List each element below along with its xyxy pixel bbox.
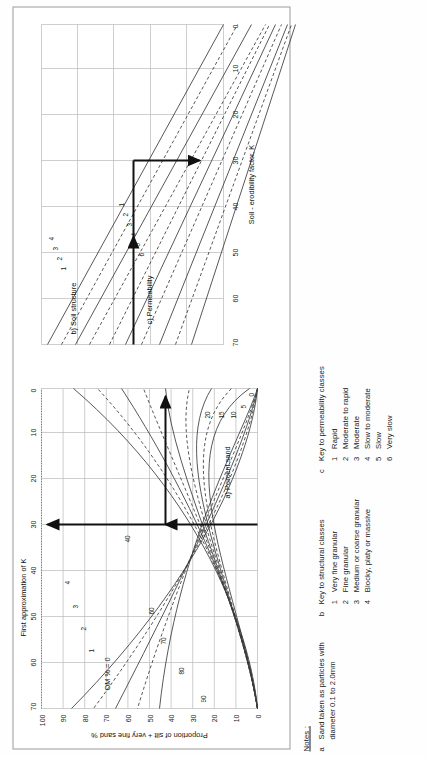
note-b-heading: Key to structural classes bbox=[315, 519, 326, 604]
svg-text:40: 40 bbox=[168, 714, 175, 722]
permeability-curves bbox=[109, 24, 295, 344]
note-c-6-num: 6 bbox=[383, 452, 394, 460]
svg-text:60: 60 bbox=[124, 714, 131, 722]
left-panel-y-axis-label: Proportion of silt + very fine sand % bbox=[90, 730, 207, 739]
note-b-1-num: 1 bbox=[328, 596, 339, 604]
note-b-3-num: 3 bbox=[350, 596, 361, 604]
svg-text:4: 4 bbox=[47, 236, 54, 240]
structure-legend: b) Soil structure bbox=[68, 282, 77, 334]
permeability-legend: c) Permeability bbox=[144, 275, 153, 324]
svg-text:0: 0 bbox=[231, 24, 238, 28]
svg-text:70: 70 bbox=[231, 338, 238, 346]
left-panel-top-axis-label: First approximation of K bbox=[18, 558, 27, 636]
svg-text:70: 70 bbox=[29, 702, 36, 710]
nomograph-figure: 0 10 20 30 40 50 60 70 First approximati… bbox=[12, 6, 290, 749]
svg-text:10: 10 bbox=[231, 64, 238, 72]
svg-text:60: 60 bbox=[147, 606, 154, 614]
svg-text:3: 3 bbox=[51, 246, 58, 250]
note-a: a Sand taken as particles with diameter … bbox=[315, 642, 394, 751]
note-c-2-label: Moderate to rapid bbox=[339, 387, 350, 448]
svg-text:5: 5 bbox=[239, 404, 246, 408]
svg-text:40: 40 bbox=[123, 534, 130, 542]
svg-text:50: 50 bbox=[146, 714, 153, 722]
note-b-4-label: Blocky, platy or massive bbox=[361, 508, 372, 591]
svg-text:50: 50 bbox=[231, 248, 238, 256]
right-panel-x-axis-label: Soil - erodibility factor, K bbox=[246, 144, 255, 223]
svg-text:2: 2 bbox=[55, 256, 62, 260]
notes-title: Notes : bbox=[300, 281, 311, 751]
right-panel-bottom-ticks: 0 10 20 30 40 50 60 70 bbox=[231, 24, 238, 346]
om-curves bbox=[71, 388, 257, 708]
note-c-3-num: 3 bbox=[350, 452, 361, 460]
svg-text:10: 10 bbox=[229, 410, 236, 418]
svg-text:60: 60 bbox=[29, 658, 36, 666]
sand-legend: a) Percent sand bbox=[222, 446, 231, 498]
svg-text:0: 0 bbox=[247, 392, 254, 396]
notes-block: Notes : a Sand taken as particles with d… bbox=[300, 281, 420, 751]
left-panel-top-ticks: 0 10 20 30 40 50 60 70 bbox=[29, 388, 36, 710]
note-c-6-label: Very slow bbox=[383, 415, 394, 448]
note-a-key: a bbox=[315, 743, 326, 751]
om-class-labels: 1 2 3 4 bbox=[63, 580, 94, 652]
note-c-3-label: Moderate bbox=[350, 416, 361, 449]
note-a-heading2: diameter 0.1 to 2.0mm bbox=[326, 661, 337, 739]
note-b-2-num: 2 bbox=[339, 596, 350, 604]
svg-text:20: 20 bbox=[211, 714, 218, 722]
svg-text:100: 100 bbox=[38, 714, 45, 726]
svg-text:2: 2 bbox=[121, 212, 128, 216]
note-b-key: b bbox=[315, 608, 326, 616]
svg-text:10: 10 bbox=[232, 714, 239, 722]
note-c: c Key to permeability classes 1Rapid 2Mo… bbox=[315, 366, 394, 473]
svg-text:50: 50 bbox=[29, 612, 36, 620]
note-c-2-num: 2 bbox=[339, 452, 350, 460]
svg-text:60: 60 bbox=[231, 294, 238, 302]
svg-text:80: 80 bbox=[81, 714, 88, 722]
svg-text:80: 80 bbox=[177, 666, 184, 674]
svg-text:1: 1 bbox=[87, 648, 94, 652]
svg-text:4: 4 bbox=[63, 580, 70, 584]
note-c-1-label: Rapid bbox=[328, 428, 339, 448]
note-c-4-label: Slow to moderate bbox=[361, 388, 372, 449]
note-c-heading: Key to permeability classes bbox=[315, 366, 326, 461]
svg-text:30: 30 bbox=[189, 714, 196, 722]
svg-text:10: 10 bbox=[29, 428, 36, 436]
svg-text:3: 3 bbox=[71, 604, 78, 608]
note-c-1-num: 1 bbox=[328, 452, 339, 460]
note-b-1-label: Very fine granular bbox=[328, 530, 339, 591]
note-c-key: c bbox=[315, 464, 326, 472]
svg-text:3: 3 bbox=[125, 222, 132, 226]
svg-text:70: 70 bbox=[159, 636, 166, 644]
svg-text:20: 20 bbox=[203, 410, 210, 418]
svg-text:90: 90 bbox=[60, 714, 67, 722]
svg-text:40: 40 bbox=[29, 566, 36, 574]
svg-text:1: 1 bbox=[59, 266, 66, 270]
svg-text:20: 20 bbox=[231, 110, 238, 118]
svg-text:20: 20 bbox=[29, 474, 36, 482]
note-a-heading: Sand taken as particles with bbox=[315, 642, 326, 739]
svg-text:40: 40 bbox=[231, 202, 238, 210]
note-c-4-num: 4 bbox=[361, 452, 372, 460]
figure-page: Notes : a Sand taken as particles with d… bbox=[0, 0, 428, 757]
left-panel-side-ticks: 0 10 20 30 40 50 60 70 80 90 100 bbox=[38, 714, 261, 726]
nomograph-svg: 0 10 20 30 40 50 60 70 First approximati… bbox=[13, 9, 287, 748]
svg-text:0: 0 bbox=[29, 388, 36, 392]
note-b: b Key to structural classes 1Very fine g… bbox=[315, 498, 394, 615]
note-b-4-num: 4 bbox=[361, 596, 372, 604]
svg-text:30: 30 bbox=[29, 520, 36, 528]
svg-text:6: 6 bbox=[137, 252, 144, 256]
om-legend: OM % = 0 bbox=[102, 657, 111, 690]
svg-text:70: 70 bbox=[103, 714, 110, 722]
note-c-5-label: Slow bbox=[372, 432, 383, 449]
svg-text:1: 1 bbox=[117, 202, 124, 206]
svg-text:30: 30 bbox=[231, 156, 238, 164]
svg-text:90: 90 bbox=[199, 694, 206, 702]
svg-text:2: 2 bbox=[79, 626, 86, 630]
rotated-figure: Notes : a Sand taken as particles with d… bbox=[0, 0, 428, 757]
svg-text:0: 0 bbox=[254, 714, 261, 718]
note-b-3-label: Medium or coarse granular bbox=[350, 498, 361, 591]
left-panel-grid bbox=[41, 388, 257, 708]
structure-class-labels: 1 2 3 4 bbox=[47, 236, 66, 270]
svg-text:15: 15 bbox=[217, 410, 224, 418]
note-c-5-num: 5 bbox=[372, 452, 383, 460]
note-b-2-label: Fine granular bbox=[339, 546, 350, 592]
